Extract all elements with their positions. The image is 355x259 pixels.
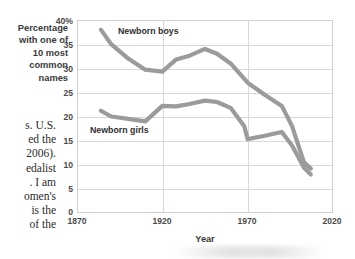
x-tick-label: 2020 xyxy=(307,216,355,226)
x-tick-label: 1970 xyxy=(222,216,272,226)
book-page: s. U.S. ed the 2006). edalist . I am ome… xyxy=(0,0,355,259)
series-lines xyxy=(77,20,333,213)
y-tick-label: 20 xyxy=(31,112,73,122)
line-chart: Newborn boys Newborn girls 40% 35 30 25 … xyxy=(0,0,355,259)
x-axis-label: Year xyxy=(77,234,333,244)
y-tick-label: 10 xyxy=(31,160,73,170)
scan-artifact xyxy=(175,246,325,258)
y-tick-label: 40% xyxy=(31,16,73,26)
x-tick-label: 1870 xyxy=(52,216,102,226)
y-tick-label: 15 xyxy=(31,136,73,146)
y-tick-label: 5 xyxy=(31,184,73,194)
series-label-newborn-boys: Newborn boys xyxy=(118,26,179,36)
y-tick-label: 30 xyxy=(31,64,73,74)
series-label-newborn-girls: Newborn girls xyxy=(90,125,149,135)
x-tick-label: 1920 xyxy=(137,216,187,226)
y-tick-label: 35 xyxy=(31,40,73,50)
series-line-newborn-girls xyxy=(101,101,311,175)
y-tick-label: 25 xyxy=(31,88,73,98)
